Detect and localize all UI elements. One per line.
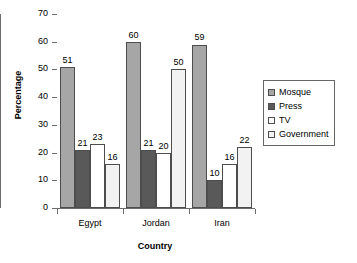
bar-government-iran [237,147,252,208]
legend-swatch-icon [268,103,275,110]
bar-value-label: 51 [56,56,80,65]
y-axis-tick-label: 20 [20,148,48,157]
y-axis-tick-label: 60 [20,37,48,46]
legend-item-mosque: Mosque [268,85,329,99]
x-axis-tick [189,209,190,214]
bar-mosque-egypt [60,67,75,208]
x-axis-tick [123,209,124,214]
bar-tv-jordan [156,153,171,208]
bar-mosque-iran [192,45,207,209]
legend-item-tv: TV [268,113,329,127]
legend-item-government: Government [268,127,329,141]
legend-swatch-icon [268,117,275,124]
bar-chart: Percentage 010203040506070 5121231660212… [0,0,357,263]
bar-value-label: 23 [86,133,110,142]
legend-item-press: Press [268,99,329,113]
y-axis-tick-label: 0 [20,203,48,212]
legend-label: Mosque [279,88,311,97]
y-axis-tick-label: 70 [20,9,48,18]
chart-legend: MosquePressTVGovernment [263,80,335,146]
bar-value-label: 50 [167,58,191,67]
x-axis-category-label: Egypt [55,218,125,228]
y-axis-tick-label: 40 [20,92,48,101]
bar-value-label: 59 [188,33,212,42]
bar-value-label: 16 [101,153,125,162]
bar-government-jordan [171,69,186,208]
y-axis-line [0,14,1,208]
y-axis-tick-label: 30 [20,120,48,129]
legend-swatch-icon [268,89,275,96]
x-axis-title: Country [55,241,255,251]
legend-swatch-icon [268,131,275,138]
bar-tv-iran [222,164,237,208]
x-axis-category-label: Jordan [121,218,191,228]
bar-value-label: 22 [233,136,257,145]
y-axis-tick-label: 50 [20,64,48,73]
bar-value-label: 60 [122,31,146,40]
legend-label: TV [279,116,291,125]
bar-press-egypt [75,150,90,208]
bar-mosque-jordan [126,42,141,208]
bar-press-jordan [141,150,156,208]
bars-layer: 512123166021205059101622 [57,14,255,208]
x-axis-line [57,208,255,209]
bar-government-egypt [105,164,120,208]
legend-label: Press [279,102,302,111]
x-axis-tick [255,209,256,214]
legend-label: Government [279,130,329,139]
x-axis-category-label: Iran [187,218,257,228]
bar-press-iran [207,180,222,208]
y-axis-tick-label: 10 [20,175,48,184]
x-axis-tick [57,209,58,214]
